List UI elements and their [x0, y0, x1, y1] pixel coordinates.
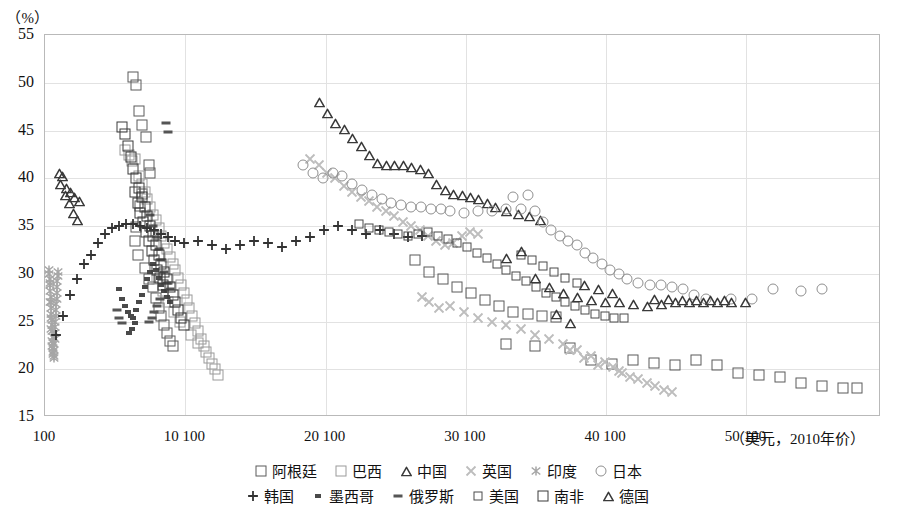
x-tick-label: 20 100 [285, 428, 365, 445]
data-point [600, 298, 610, 307]
legend-label: 日本 [612, 460, 642, 481]
legend-label: 阿根廷 [272, 460, 317, 481]
x-icon [463, 464, 479, 478]
data-point [558, 288, 568, 297]
dash-icon [390, 489, 406, 503]
legend-label: 印度 [547, 460, 577, 481]
y-tick-label: 50 [0, 74, 34, 90]
square-filled-icon [310, 489, 326, 503]
data-point [501, 254, 511, 263]
legend-item-德国[interactable]: 德国 [600, 485, 649, 506]
square-icon [333, 464, 349, 478]
data-point [586, 296, 596, 305]
diamond-icon [253, 464, 269, 478]
y-tick-label: 15 [0, 408, 34, 424]
legend-label: 中国 [417, 460, 447, 481]
legend-label: 韩国 [264, 485, 294, 506]
legend-item-印度[interactable]: 印度 [528, 460, 577, 481]
data-point [628, 300, 638, 309]
x-tick-label: 40 100 [565, 428, 645, 445]
legend-item-英国[interactable]: 英国 [463, 460, 512, 481]
series-11 [45, 35, 879, 415]
diamond-small-icon [470, 489, 486, 503]
data-point [516, 246, 526, 255]
legend-label: 俄罗斯 [409, 485, 454, 506]
legend-label: 美国 [489, 485, 519, 506]
legend-item-阿根廷[interactable]: 阿根廷 [253, 460, 317, 481]
data-point [614, 298, 624, 307]
plot-area [44, 34, 880, 416]
triangle-dark-icon [398, 464, 414, 478]
y-axis-unit-label: （%） [6, 6, 50, 27]
legend-label: 墨西哥 [329, 485, 374, 506]
plus-icon [245, 489, 261, 503]
y-tick-label: 55 [0, 26, 34, 42]
x-axis-unit-label: （美元，2010年价） [730, 427, 865, 448]
legend-item-巴西[interactable]: 巴西 [333, 460, 382, 481]
legend: 阿根廷巴西中国英国印度日本 韩国墨西哥俄罗斯美国南非德国 [0, 458, 910, 508]
y-tick-label: 40 [0, 169, 34, 185]
data-point [572, 292, 582, 301]
legend-label: 英国 [482, 460, 512, 481]
legend-item-韩国[interactable]: 韩国 [245, 485, 294, 506]
legend-item-美国[interactable]: 美国 [470, 485, 519, 506]
y-tick-label: 35 [0, 217, 34, 233]
circle-icon [593, 464, 609, 478]
scatter-chart-figure: （%） 555045403530252015 10010 10020 10030… [0, 0, 910, 514]
x-tick-label: 10 100 [144, 428, 224, 445]
data-point [719, 296, 729, 305]
data-point [740, 298, 750, 307]
data-point [551, 309, 561, 318]
data-point [530, 273, 540, 282]
legend-item-中国[interactable]: 中国 [398, 460, 447, 481]
x-tick-label: 100 [4, 428, 84, 445]
triangle-open-icon [600, 489, 616, 503]
legend-row-2: 韩国墨西哥俄罗斯美国南非德国 [0, 483, 910, 508]
data-point [705, 296, 715, 305]
legend-item-俄罗斯[interactable]: 俄罗斯 [390, 485, 454, 506]
y-tick-label: 25 [0, 313, 34, 329]
x-tick-label: 30 100 [425, 428, 505, 445]
star-icon [528, 464, 544, 478]
data-point [663, 294, 673, 303]
legend-label: 巴西 [352, 460, 382, 481]
square-dark-icon [535, 489, 551, 503]
y-tick-label: 30 [0, 265, 34, 281]
legend-item-墨西哥[interactable]: 墨西哥 [310, 485, 374, 506]
legend-item-南非[interactable]: 南非 [535, 485, 584, 506]
data-point [579, 281, 589, 290]
data-point [544, 283, 554, 292]
y-tick-label: 20 [0, 360, 34, 376]
data-point [691, 296, 701, 305]
data-point [677, 296, 687, 305]
y-tick-label: 45 [0, 122, 34, 138]
data-point [593, 285, 603, 294]
legend-row-1: 阿根廷巴西中国英国印度日本 [0, 458, 910, 483]
data-point [649, 294, 659, 303]
legend-label: 德国 [619, 485, 649, 506]
legend-label: 南非 [554, 485, 584, 506]
data-point [565, 319, 575, 328]
legend-item-日本[interactable]: 日本 [593, 460, 642, 481]
data-point [607, 288, 617, 297]
